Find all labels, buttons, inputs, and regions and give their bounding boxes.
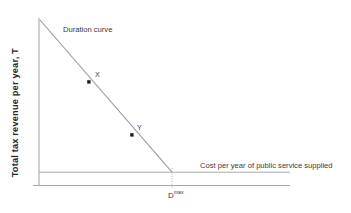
chart-canvas bbox=[0, 0, 351, 213]
point-y-label: Y bbox=[137, 124, 142, 131]
dmax-superscript: max bbox=[174, 189, 184, 195]
duration-curve-figure: Total tax revenue per year, T Duration c… bbox=[0, 0, 351, 213]
marker-point-y bbox=[130, 133, 133, 136]
duration-curve-label: Duration curve bbox=[63, 26, 112, 34]
x-axis-tick-label-dmax: Dmax bbox=[168, 192, 184, 200]
marker-point-x bbox=[87, 80, 90, 83]
point-x-label: X bbox=[95, 71, 100, 78]
duration-curve-line bbox=[40, 20, 172, 172]
y-axis-title: Total tax revenue per year, T bbox=[11, 37, 20, 189]
cost-line-label: Cost per year of public service supplied bbox=[200, 162, 333, 170]
